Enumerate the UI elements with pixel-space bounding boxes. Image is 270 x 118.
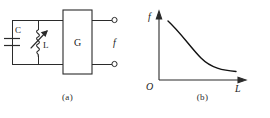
output-frequency-label: f	[113, 37, 117, 48]
chart-curve-f-vs-l	[168, 21, 236, 72]
x-axis-arrow-head	[238, 77, 246, 82]
chart-y-axis	[156, 11, 161, 80]
panel-circuit-diagram: C L G f (a)	[0, 0, 135, 118]
circuit-svg: C L G f	[0, 0, 135, 92]
chart-svg: f L O	[135, 0, 270, 92]
caption-panel-a: (a)	[0, 92, 135, 102]
chart-x-axis	[159, 77, 246, 82]
chart-origin-label: O	[146, 81, 153, 92]
figure-root: C L G f (a)	[0, 0, 270, 118]
amplifier-block-label: G	[74, 37, 81, 48]
inductor-label: L	[43, 40, 49, 50]
chart-ylabel: f	[148, 11, 152, 22]
inductor-symbol	[37, 30, 40, 56]
caption-panel-b: (b)	[135, 92, 270, 102]
panel-chart: f L O (b)	[135, 0, 270, 118]
output-terminal-top-icon	[112, 17, 117, 22]
chart-xlabel: L	[234, 83, 241, 92]
inductor-coil	[37, 30, 40, 56]
circuit-wires	[12, 20, 112, 64]
output-terminal-bottom-icon	[112, 61, 117, 66]
capacitor-label: C	[15, 25, 21, 35]
y-axis-arrow-head	[156, 11, 161, 19]
